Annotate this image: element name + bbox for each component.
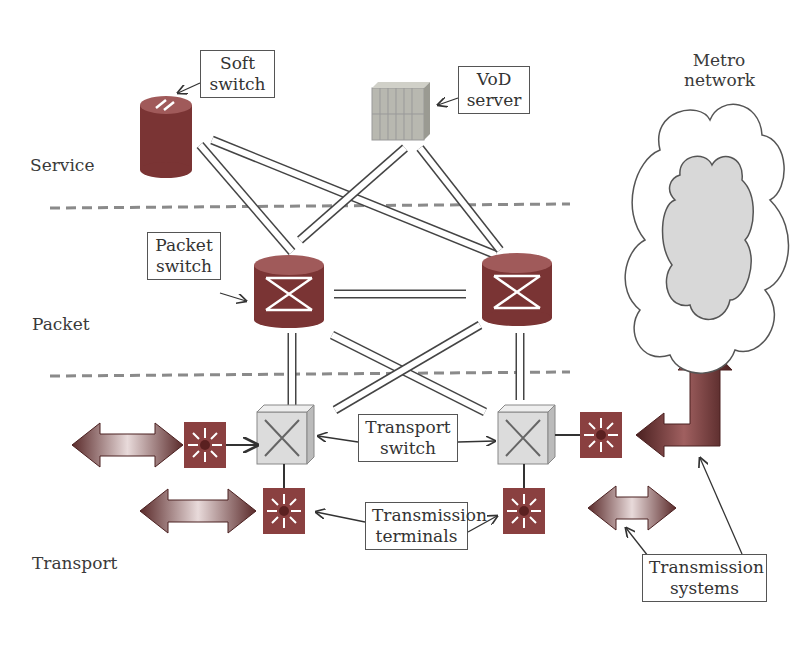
packet-switch-left-icon [254, 255, 324, 328]
callout-line: Soft [207, 53, 268, 74]
soft-switch-icon [140, 96, 192, 178]
callout-line: switch [154, 256, 214, 277]
terminal-left-top-icon [184, 422, 226, 468]
cloud-label-line: network [684, 70, 754, 90]
terminal-right-top-icon [580, 412, 622, 458]
callout-line: Transmission [649, 557, 760, 578]
soft-switch-callout: Soft switch [200, 50, 275, 98]
callout-line: Packet [154, 235, 214, 256]
links [200, 140, 520, 412]
packet-transport-divider [50, 372, 570, 376]
transmission-arrow-left-top [72, 423, 183, 467]
callout-line: server [465, 90, 523, 111]
transmission-terminals-callout: Transmission terminals [365, 502, 468, 550]
callout-line: systems [649, 578, 760, 599]
transmission-arrow-right-bottom [588, 486, 676, 530]
layer-label-packet: Packet [32, 314, 90, 334]
metro-network-label: Metro network [684, 50, 754, 90]
callout-line: switch [365, 438, 451, 459]
callout-line: VoD [465, 69, 523, 90]
terminal-left-bottom-icon [263, 488, 305, 534]
transport-switch-callout: Transport switch [358, 414, 458, 462]
service-packet-divider [50, 204, 570, 208]
layer-label-transport: Transport [32, 553, 117, 573]
metro-network-cloud-icon [625, 104, 788, 373]
packet-switch-right-icon [482, 253, 552, 326]
callout-line: Transmission [372, 505, 461, 526]
transmission-arrow-left-bottom [140, 489, 256, 533]
callout-line: terminals [372, 526, 461, 547]
transmission-systems-callout: Transmission systems [642, 554, 767, 602]
cloud-label-line: Metro [684, 50, 754, 70]
callout-line: switch [207, 74, 268, 95]
vod-server-icon [372, 82, 430, 140]
callout-line: Transport [365, 417, 451, 438]
vod-server-callout: VoD server [458, 66, 530, 114]
transport-switch-left-icon [257, 405, 314, 464]
terminal-right-bottom-icon [503, 488, 545, 534]
layer-label-service: Service [30, 155, 94, 175]
packet-switch-callout: Packet switch [147, 232, 221, 280]
transport-switch-right-icon [498, 405, 555, 464]
